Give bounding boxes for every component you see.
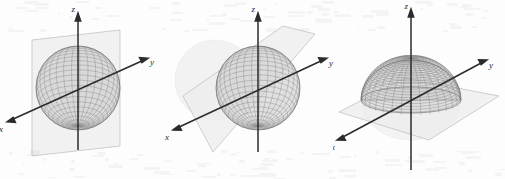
panel-1: z y x xyxy=(0,0,170,179)
panel-2: z y x xyxy=(163,0,338,179)
axis-label-x: x xyxy=(164,132,169,142)
axis-label-y: y xyxy=(488,60,493,70)
panel-1-svg: z y x xyxy=(0,0,170,179)
panel-3: z y x xyxy=(333,0,505,179)
axis-label-y: y xyxy=(149,57,154,67)
figure-canvas: z y x xyxy=(0,0,505,179)
axis-label-z: z xyxy=(403,1,408,11)
axis-label-x: x xyxy=(333,142,335,152)
panel-2-svg: z y x xyxy=(163,0,338,179)
panel-3-svg: z y x xyxy=(333,0,505,179)
axes-1 xyxy=(7,13,148,150)
axis-label-z: z xyxy=(250,4,255,14)
axis-label-z: z xyxy=(70,4,75,14)
axis-label-x: x xyxy=(0,124,3,134)
